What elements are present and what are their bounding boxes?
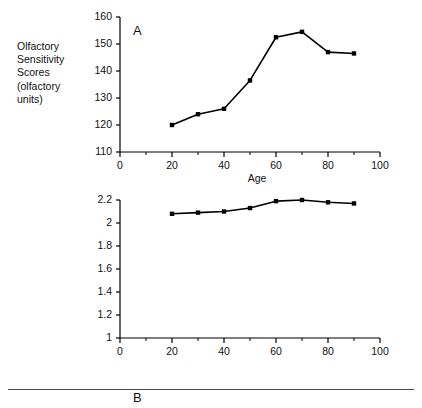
panel-b-letter: B xyxy=(133,390,142,405)
panel-a-x-axis-label: Age xyxy=(227,172,287,184)
panel-b-y-tick-label: 1.8 xyxy=(72,239,112,251)
panel-a-x-tick-label: 80 xyxy=(308,159,348,171)
panel-a-x-tick-label: 0 xyxy=(100,159,140,171)
panel-b-y-tick-label: 1.4 xyxy=(72,285,112,297)
panel-b-y-tick-label: 1.6 xyxy=(72,262,112,274)
panel-a-x-tick-label: 60 xyxy=(256,159,296,171)
panel-a-y-tick-label: 120 xyxy=(72,118,112,130)
panel-b-y-tick-label: 1.2 xyxy=(72,308,112,320)
panel-b-x-tick-label: 60 xyxy=(256,345,296,357)
panel-b: Olfactory Sensitivity Scores (log scores… xyxy=(0,186,422,376)
panel-b-x-tick-label: 40 xyxy=(204,345,244,357)
panel-a: Olfactory Sensitivity Scores (olfactory … xyxy=(0,0,422,190)
footer-divider xyxy=(8,389,414,390)
panel-a-y-tick-label: 160 xyxy=(72,10,112,22)
panel-a-x-tick-label: 100 xyxy=(360,159,400,171)
panel-b-x-tick-label: 100 xyxy=(360,345,400,357)
panel-a-x-tick-label: 40 xyxy=(204,159,244,171)
panel-a-y-tick-label: 110 xyxy=(72,145,112,157)
figure-two-panel-line-charts: Olfactory Sensitivity Scores (olfactory … xyxy=(0,0,422,408)
panel-b-y-tick-label: 1 xyxy=(72,331,112,343)
panel-a-x-tick-label: 20 xyxy=(152,159,192,171)
panel-b-y-tick-label: 2.2 xyxy=(72,193,112,205)
panel-b-x-tick-label: 80 xyxy=(308,345,348,357)
panel-a-y-tick-label: 130 xyxy=(72,91,112,103)
panel-a-y-tick-label: 140 xyxy=(72,64,112,76)
panel-b-y-tick-label: 2 xyxy=(72,216,112,228)
panel-a-y-tick-label: 150 xyxy=(72,37,112,49)
panel-b-x-tick-label: 20 xyxy=(152,345,192,357)
panel-b-x-tick-label: 0 xyxy=(100,345,140,357)
